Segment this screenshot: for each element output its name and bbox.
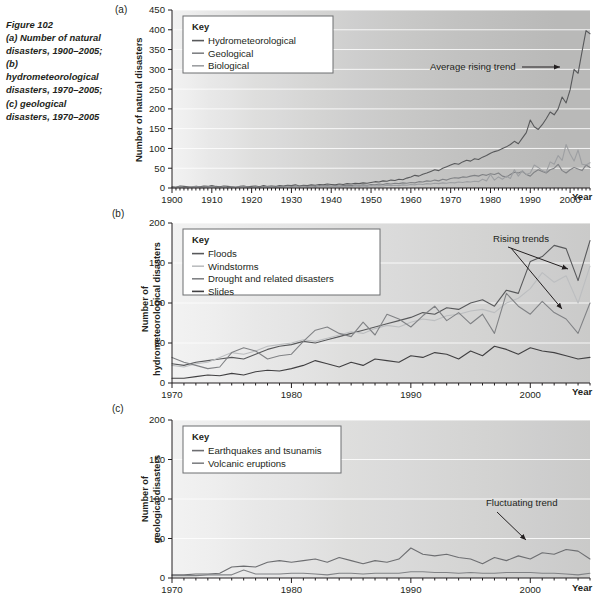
x-tick-label: 1980 <box>480 194 501 205</box>
legend-label: Slides <box>208 286 234 297</box>
y-axis-title-a: Number of natural disasters <box>133 14 144 186</box>
x-tick-label: 1950 <box>360 194 381 205</box>
y-tick-label: 400 <box>149 24 165 35</box>
x-tick-label: 1970 <box>161 584 182 595</box>
x-tick-label: 1920 <box>241 194 262 205</box>
x-tick-label: 1970 <box>161 389 182 400</box>
chart-svg-b: 0501001502001970198019902000KeyFloodsWin… <box>0 205 608 400</box>
chart-panel-c: (c) Number of geological disasters Year … <box>0 400 608 604</box>
y-axis-title-b-line2: hydrometeorological disasters <box>152 242 162 376</box>
legend-title: Key <box>192 234 210 245</box>
legend-label: Volcanic eruptions <box>208 458 286 469</box>
x-tick-label: 1900 <box>161 194 182 205</box>
y-tick-label: 300 <box>149 64 165 75</box>
chart-annotation: Rising trends <box>493 233 549 244</box>
y-axis-title-c-line2: geological disasters <box>152 455 162 543</box>
x-tick-label: 1930 <box>281 194 302 205</box>
x-tick-label: 1970 <box>440 194 461 205</box>
x-tick-label: 1980 <box>281 584 302 595</box>
y-axis-title-c-line1: Number of <box>140 476 150 522</box>
chart-svg-c: 0501001502001970198019902000KeyEarthquak… <box>0 400 608 604</box>
y-tick-label: 350 <box>149 44 165 55</box>
chart-annotation: Fluctuating trend <box>486 497 557 508</box>
x-tick-label: 1990 <box>520 194 541 205</box>
x-tick-label: 1960 <box>400 194 421 205</box>
panel-label-c: (c) <box>112 403 124 414</box>
x-tick-label: 2000 <box>520 584 541 595</box>
y-tick-label: 200 <box>149 103 165 114</box>
legend-label: Drought and related disasters <box>208 273 334 284</box>
chart-panel-a: (a) Number of natural disasters Year 050… <box>0 0 608 205</box>
legend-label: Earthquakes and tsunamis <box>208 445 322 456</box>
y-axis-title-c: Number of geological disasters <box>124 424 140 584</box>
y-tick-label: 150 <box>149 123 165 134</box>
legend-label: Biological <box>208 60 249 71</box>
y-tick-label: 0 <box>160 182 165 193</box>
panel-label-a: (a) <box>115 4 127 15</box>
y-tick-label: 100 <box>149 143 165 154</box>
y-tick-label: 0 <box>160 572 165 583</box>
legend-title: Key <box>192 431 210 442</box>
y-tick-label: 450 <box>149 4 165 15</box>
x-axis-title-b: Year <box>572 386 592 397</box>
x-axis-title-a: Year <box>572 191 592 202</box>
chart-annotation: Average rising trend <box>430 61 516 72</box>
x-axis-title-c: Year <box>572 582 592 593</box>
legend-label: Windstorms <box>208 261 259 272</box>
panel-label-b: (b) <box>112 208 124 219</box>
y-axis-title-b-line1: Number of <box>140 286 150 332</box>
y-tick-label: 250 <box>149 84 165 95</box>
x-tick-label: 1910 <box>201 194 222 205</box>
y-tick-label: 50 <box>154 163 165 174</box>
x-tick-label: 1990 <box>400 584 421 595</box>
legend-label: Floods <box>208 248 237 259</box>
x-tick-label: 1980 <box>281 389 302 400</box>
y-axis-title-b: Number of hydrometeorological disasters <box>124 225 140 395</box>
x-tick-label: 1940 <box>321 194 342 205</box>
legend-label: Hydrometeorological <box>208 35 296 46</box>
x-tick-label: 1990 <box>400 389 421 400</box>
chart-svg-a: 0501001502002503003504004501900191019201… <box>0 0 608 205</box>
x-tick-label: 2000 <box>520 389 541 400</box>
chart-panel-b: (b) Number of hydrometeorological disast… <box>0 205 608 400</box>
legend-title: Key <box>192 21 210 32</box>
legend-label: Geological <box>208 48 253 59</box>
